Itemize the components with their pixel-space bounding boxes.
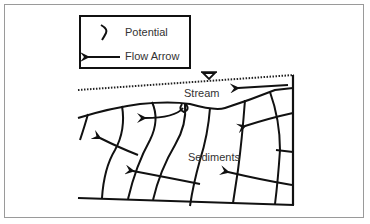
bottom-boundary: [78, 198, 294, 205]
water-table-triangle-icon: [203, 73, 215, 79]
stream-label: Stream: [184, 87, 219, 99]
flow-arrow: [145, 108, 183, 118]
legend: Potential Flow Arrow: [80, 16, 190, 68]
legend-label-potential: Potential: [125, 26, 168, 38]
flow-net-diagram: Potential Flow Arrow Stream Sedimen: [0, 0, 370, 224]
potential-line: [102, 106, 123, 198]
flow-line-segment: [276, 150, 293, 152]
potential-line: [128, 102, 156, 199]
potential-line-icon: [101, 25, 106, 40]
legend-label-flow-arrow: Flow Arrow: [125, 50, 179, 62]
stream-flow-arrow: [238, 85, 288, 88]
flow-arrow: [245, 113, 293, 126]
sediments-label: Sediments: [188, 151, 240, 163]
flow-arrow: [133, 171, 200, 184]
potential-line: [270, 92, 280, 204]
